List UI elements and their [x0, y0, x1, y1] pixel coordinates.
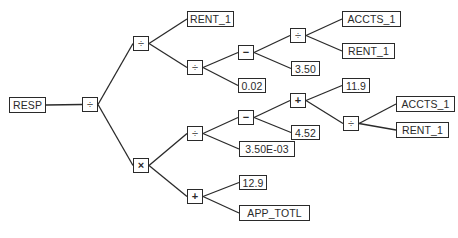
tree-edge	[359, 104, 396, 124]
add-operator-node: +	[290, 93, 306, 108]
tree-edge	[149, 134, 187, 166]
divide-operator-node: ÷	[82, 97, 98, 112]
tree-edge	[203, 183, 239, 197]
leaf-node: RENT_1	[187, 11, 234, 27]
divide-operator-node: ÷	[187, 126, 203, 141]
leaf-node: APP_TOTL	[239, 205, 310, 221]
tree-edge	[203, 197, 239, 214]
tree-edge	[306, 101, 343, 124]
output-node: RESP	[9, 97, 46, 113]
tree-edge	[98, 44, 133, 105]
leaf-node: 12.9	[239, 175, 267, 190]
add-operator-node: +	[187, 189, 203, 204]
leaf-node: ACCTS_1	[342, 11, 401, 27]
tree-edge	[203, 68, 238, 86]
leaf-node: 3.50	[291, 61, 320, 76]
tree-edge	[149, 19, 187, 44]
leaf-node: RENT_1	[396, 122, 449, 138]
tree-edge	[359, 124, 396, 131]
tree-edge	[306, 36, 342, 52]
multiply-operator-node: ×	[133, 158, 149, 173]
divide-operator-node: ÷	[187, 60, 203, 75]
leaf-node: 11.9	[342, 78, 370, 93]
tree-edge	[203, 118, 238, 134]
subtract-operator-node: −	[238, 110, 254, 125]
divide-operator-node: ÷	[133, 36, 149, 51]
tree-edge	[46, 105, 82, 106]
leaf-node: 4.52	[291, 125, 320, 140]
tree-edges	[0, 0, 458, 238]
leaf-node: 3.50E-03	[239, 141, 295, 157]
tree-edge	[306, 19, 342, 36]
tree-edge	[149, 44, 187, 68]
tree-edge	[254, 53, 291, 69]
leaf-node: 0.02	[238, 78, 266, 93]
leaf-node: ACCTS_1	[396, 96, 455, 112]
tree-edge	[254, 118, 291, 133]
tree-edge	[254, 101, 290, 118]
tree-edge	[98, 105, 133, 166]
tree-edge	[203, 53, 238, 68]
leaf-node: RENT_1	[342, 43, 395, 59]
divide-operator-node: ÷	[343, 116, 359, 131]
tree-edge	[306, 86, 342, 101]
divide-operator-node: ÷	[290, 28, 306, 43]
tree-edge	[203, 134, 239, 150]
tree-edge	[254, 36, 290, 53]
tree-edge	[149, 166, 187, 197]
subtract-operator-node: −	[238, 45, 254, 60]
